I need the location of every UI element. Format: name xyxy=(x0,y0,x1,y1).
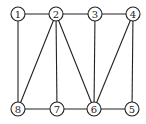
node-6: 6 xyxy=(87,102,101,116)
node-label: 4 xyxy=(130,9,136,20)
node-4: 4 xyxy=(126,7,140,21)
node-8: 8 xyxy=(11,102,25,116)
node-label: 3 xyxy=(92,9,98,20)
edge-2-6 xyxy=(56,14,94,109)
edge-4-6 xyxy=(94,14,133,109)
edge-4-5 xyxy=(132,14,133,109)
edges xyxy=(18,14,133,109)
node-label: 8 xyxy=(15,104,21,115)
node-1: 1 xyxy=(11,7,25,21)
node-label: 1 xyxy=(15,9,21,20)
node-label: 5 xyxy=(129,104,135,115)
node-label: 7 xyxy=(54,104,60,115)
graph-diagram: 12348765 xyxy=(0,0,146,124)
node-label: 2 xyxy=(53,9,59,20)
edge-2-8 xyxy=(18,14,56,109)
node-7: 7 xyxy=(50,102,64,116)
edge-2-7 xyxy=(56,14,57,109)
node-5: 5 xyxy=(125,102,139,116)
edge-3-6 xyxy=(94,14,95,109)
node-3: 3 xyxy=(88,7,102,21)
node-2: 2 xyxy=(49,7,63,21)
node-label: 6 xyxy=(91,104,97,115)
